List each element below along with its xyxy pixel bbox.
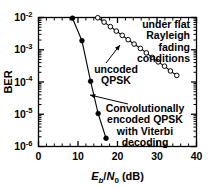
annotation-uncoded-qpsk: uncodedQPSK [94, 63, 138, 86]
data-point-open [174, 73, 179, 78]
data-point-filled [80, 38, 85, 43]
data-point-open [162, 64, 167, 69]
data-point-filled [96, 111, 101, 116]
y-tick-label: 10-5 [14, 106, 32, 120]
x-axis-tick-labels: 010203040 [36, 150, 203, 162]
x-axis-title: Eb/N0 (dB) [91, 170, 144, 185]
y-axis-tick-labels: 10-210-310-410-510-6 [14, 10, 33, 153]
data-point-open [126, 37, 131, 42]
data-point-filled [70, 16, 75, 21]
annotation-labels: under flatRayleighfadingconditionsuncode… [94, 18, 190, 148]
x-tick-label: 40 [191, 150, 203, 162]
x-tick-label: 10 [72, 150, 84, 162]
data-point-filled [88, 79, 93, 84]
data-point-open [95, 15, 100, 20]
y-tick-label: 10-3 [14, 42, 32, 56]
data-point-open [102, 20, 107, 25]
y-tick-label: 10-6 [14, 139, 32, 153]
data-point-open [108, 24, 113, 29]
data-point-open [168, 69, 173, 74]
annotation-under-flat-rayleigh: under flatRayleighfadingconditions [137, 18, 191, 64]
data-point-open [138, 46, 143, 51]
data-point-open [114, 29, 119, 34]
x-tick-label: 30 [151, 150, 163, 162]
ber-chart-figure: 010203040 10-210-310-410-510-6 BEREb/N0 … [0, 0, 211, 187]
y-tick-label: 10-4 [14, 74, 33, 88]
x-tick-label: 20 [112, 150, 124, 162]
y-axis-title: BER [2, 70, 14, 93]
x-tick-label: 0 [36, 150, 42, 162]
chart-svg: 010203040 10-210-310-410-510-6 BEREb/N0 … [0, 0, 211, 187]
data-point-filled [104, 136, 109, 141]
data-point-open [120, 33, 125, 38]
data-point-open [132, 42, 137, 47]
y-tick-label: 10-2 [14, 10, 32, 24]
